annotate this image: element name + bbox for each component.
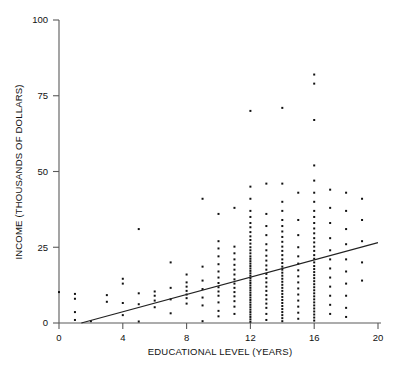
x-axis-title: EDUCATIONAL LEVEL (YEARS) xyxy=(148,346,293,357)
x-tick-label-0: 0 xyxy=(56,332,61,343)
data-point xyxy=(281,317,283,319)
data-point xyxy=(249,216,251,218)
data-point xyxy=(313,265,315,267)
data-point xyxy=(281,311,283,313)
data-point xyxy=(249,198,251,200)
data-point xyxy=(281,266,283,268)
data-point xyxy=(249,280,251,282)
data-point xyxy=(297,294,299,296)
data-point xyxy=(281,287,283,289)
data-point xyxy=(313,201,315,203)
data-point xyxy=(265,307,267,309)
data-point xyxy=(345,228,347,230)
data-point xyxy=(249,110,251,112)
data-point xyxy=(122,302,124,304)
data-point xyxy=(297,300,299,302)
data-point xyxy=(233,287,235,289)
data-point xyxy=(297,269,299,271)
data-point xyxy=(265,183,267,185)
data-point xyxy=(313,314,315,316)
y-tick-label-0: 0 xyxy=(43,317,48,328)
data-point xyxy=(265,303,267,305)
data-point xyxy=(233,300,235,302)
data-point xyxy=(233,207,235,209)
data-point xyxy=(249,294,251,296)
data-point xyxy=(249,226,251,228)
data-point xyxy=(186,281,188,283)
data-point xyxy=(138,228,140,230)
data-point xyxy=(281,290,283,292)
x-tick-label-16: 16 xyxy=(309,332,320,343)
data-point xyxy=(249,222,251,224)
data-point xyxy=(233,252,235,254)
data-point xyxy=(249,289,251,291)
data-point xyxy=(313,310,315,312)
data-point xyxy=(329,295,331,297)
data-point xyxy=(281,230,283,232)
data-point xyxy=(281,241,283,243)
data-point xyxy=(265,234,267,236)
data-point xyxy=(265,269,267,271)
plot-canvas: 0255075100 048121620 EDUCATIONAL LEVEL (… xyxy=(0,0,405,369)
data-point xyxy=(249,210,251,212)
data-point xyxy=(249,272,251,274)
data-point xyxy=(313,317,315,319)
data-point xyxy=(281,258,283,260)
data-point xyxy=(297,255,299,257)
data-point xyxy=(218,310,220,312)
data-point xyxy=(249,186,251,188)
data-point xyxy=(313,227,315,229)
data-point xyxy=(218,295,220,297)
data-point xyxy=(233,295,235,297)
data-point xyxy=(186,297,188,299)
data-point xyxy=(313,180,315,182)
data-point xyxy=(249,265,251,267)
data-point xyxy=(345,243,347,245)
data-point xyxy=(122,278,124,280)
data-point xyxy=(281,183,283,185)
data-point xyxy=(202,304,204,306)
data-point xyxy=(297,318,299,320)
data-point xyxy=(265,298,267,300)
data-point xyxy=(297,219,299,221)
data-point xyxy=(297,287,299,289)
data-point xyxy=(281,308,283,310)
data-point xyxy=(361,261,363,263)
data-point xyxy=(218,247,220,249)
data-point xyxy=(313,222,315,224)
data-point xyxy=(249,287,251,289)
data-point xyxy=(313,320,315,322)
data-point xyxy=(281,236,283,238)
data-point xyxy=(297,192,299,194)
data-point xyxy=(297,275,299,277)
data-point xyxy=(313,74,315,76)
data-point xyxy=(249,252,251,254)
data-point xyxy=(313,216,315,218)
data-point xyxy=(281,305,283,307)
data-point xyxy=(249,311,251,313)
data-point xyxy=(233,246,235,248)
data-point xyxy=(265,294,267,296)
data-point xyxy=(313,192,315,194)
data-point xyxy=(249,318,251,320)
data-point xyxy=(313,286,315,288)
data-point xyxy=(122,283,124,285)
data-point xyxy=(313,289,315,291)
data-point xyxy=(345,210,347,212)
data-point xyxy=(313,254,315,256)
data-point xyxy=(265,277,267,279)
data-point xyxy=(74,319,76,321)
data-point xyxy=(313,261,315,263)
data-point xyxy=(281,225,283,227)
data-point xyxy=(249,301,251,303)
data-point xyxy=(170,261,172,263)
data-point xyxy=(329,267,331,269)
data-point xyxy=(265,213,267,215)
data-point xyxy=(186,274,188,276)
data-point xyxy=(249,255,251,257)
data-point xyxy=(249,235,251,237)
data-point xyxy=(170,312,172,314)
data-point xyxy=(186,303,188,305)
data-point xyxy=(186,290,188,292)
data-point xyxy=(249,321,251,323)
